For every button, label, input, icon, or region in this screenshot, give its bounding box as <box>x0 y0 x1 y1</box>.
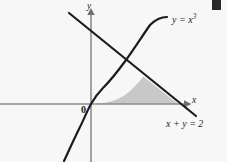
curve-equation-label: y = x3 <box>172 14 196 25</box>
origin-label: 0 <box>81 105 86 115</box>
y-axis-label: y <box>87 2 91 12</box>
curve-equation-text: y = x <box>172 14 193 25</box>
curve-equation-exponent: 3 <box>193 13 197 21</box>
page-corner-mark <box>210 0 223 10</box>
figure-container: y = x3 x + y = 2 x y 0 <box>0 0 227 162</box>
line-equation-label: x + y = 2 <box>166 119 203 129</box>
x-axis-label: x <box>192 96 196 106</box>
